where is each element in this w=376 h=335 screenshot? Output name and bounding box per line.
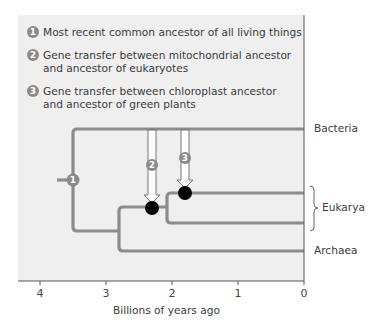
x-axis-ticks [40,281,304,285]
tick-label-2: 2 [162,287,182,300]
phylogenetic-tree [0,0,376,335]
chloro-transfer-dot [178,186,192,200]
eukarya-brace [310,186,318,231]
archaea-eukarya-branch [119,207,304,251]
tick-label-1: 1 [228,287,248,300]
leaf-label-eukarya: Eukarya [322,201,365,213]
tick-label-4: 4 [30,287,50,300]
tick-label-0: 0 [294,287,314,300]
leaf-label-archaea: Archaea [314,244,357,256]
mito-transfer-dot [145,201,159,215]
leaf-label-bacteria: Bacteria [314,122,358,134]
tick-label-3: 3 [96,287,116,300]
arrow-2-label: 2 [146,159,158,171]
root-node-label: 1 [67,174,79,186]
arrow-3-label: 3 [179,152,191,164]
x-axis-title: Billions of years ago [113,304,220,316]
